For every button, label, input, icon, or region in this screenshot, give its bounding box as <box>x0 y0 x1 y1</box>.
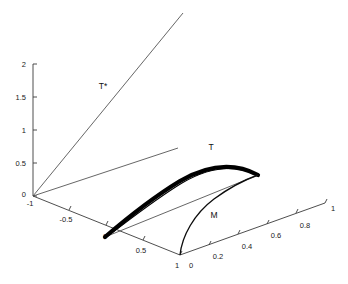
y-axis-tick-label: 0.2 <box>213 252 223 261</box>
plane-far-edge <box>105 175 258 237</box>
x-axis-line <box>33 196 180 255</box>
curve-label-t: T <box>208 142 213 152</box>
y-axis-tick-label: 1 <box>331 204 335 213</box>
z-axis-tick-label: 0.5 <box>16 159 26 168</box>
chart-figure: 2 1.5 1 0.5 0 -1 -0.5 0 0.5 1 <box>0 0 348 284</box>
x-axis-tick <box>106 221 108 225</box>
z-axis: 2 1.5 1 0.5 0 <box>16 60 37 199</box>
y-axis: 0 0.2 0.4 0.6 0.8 1 <box>180 199 335 270</box>
t-star-ray <box>33 13 183 196</box>
curve-label-m: M <box>210 210 217 220</box>
chart-plot-area: 2 1.5 1 0.5 0 -1 -0.5 0 0.5 1 <box>0 0 348 284</box>
z-axis-tick-label: 1.5 <box>16 93 26 102</box>
curve-t-path <box>105 167 258 237</box>
x-axis-tick <box>143 236 145 240</box>
z-axis-tick-label: 1 <box>22 126 26 135</box>
plane-edge-ray <box>33 148 178 196</box>
y-axis-tick <box>325 199 327 203</box>
y-axis-tick-label: 0 <box>189 261 193 270</box>
x-axis: -1 -0.5 0 0.5 1 <box>27 196 182 270</box>
x-axis-tick <box>69 206 71 210</box>
x-axis-tick-label: 0.5 <box>136 246 146 255</box>
curve-label-t-star: T* <box>99 81 108 91</box>
x-axis-tick-label: 1 <box>175 261 179 270</box>
z-axis-tick-label: 2 <box>22 60 26 69</box>
x-axis-tick-label: -1 <box>27 199 34 208</box>
x-axis-tick-label: -0.5 <box>60 215 73 224</box>
y-axis-tick-label: 0.6 <box>271 231 281 240</box>
y-axis-tick-label: 0.4 <box>242 242 252 251</box>
y-axis-tick-label: 0.8 <box>300 221 310 230</box>
z-axis-tick-label: 0 <box>22 190 26 199</box>
